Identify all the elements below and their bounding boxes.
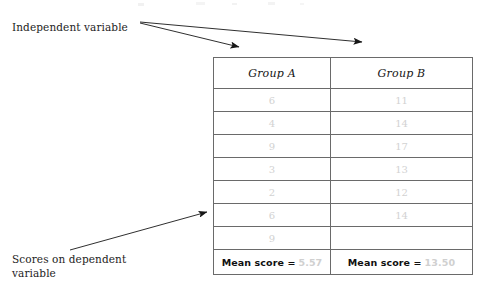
cell-group-b-score: 14 xyxy=(331,204,473,227)
scan-artifact xyxy=(0,0,485,10)
mean-score-label: Mean score = xyxy=(222,257,296,268)
table-row: 3 13 xyxy=(214,158,473,181)
cell-group-a-score: 4 xyxy=(214,112,331,135)
cell-group-a-score: 3 xyxy=(214,158,331,181)
cell-group-a-mean: Mean score = 5.57 xyxy=(214,250,331,275)
mean-score-label: Mean score = xyxy=(348,257,422,268)
cell-group-a-score: 9 xyxy=(214,227,331,250)
arrow-to-group-b xyxy=(140,22,362,42)
cell-group-b-score: 11 xyxy=(331,89,473,112)
annotation-independent-variable: Independent variable xyxy=(12,20,128,34)
cell-group-b-score: 14 xyxy=(331,112,473,135)
table-header-row: Group A Group B xyxy=(214,58,473,89)
table-row: 4 14 xyxy=(214,112,473,135)
table-row: 9 xyxy=(214,227,473,250)
table-row: 6 11 xyxy=(214,89,473,112)
cell-group-b-score: 13 xyxy=(331,158,473,181)
cell-group-b-score: 17 xyxy=(331,135,473,158)
table-row: 2 12 xyxy=(214,181,473,204)
cell-group-b-score: 12 xyxy=(331,181,473,204)
cell-group-b-mean: Mean score = 13.50 xyxy=(331,250,473,275)
cell-group-a-score: 6 xyxy=(214,204,331,227)
annotation-scores-dependent-variable: Scores on dependent variable xyxy=(12,252,126,280)
mean-score-value-group-b: 13.50 xyxy=(425,257,456,268)
table-row: 6 14 xyxy=(214,204,473,227)
cell-group-a-score: 9 xyxy=(214,135,331,158)
cell-group-b-score-empty xyxy=(331,227,473,250)
column-header-group-b: Group B xyxy=(331,58,473,89)
arrow-to-scores xyxy=(70,212,207,250)
group-scores-table: Group A Group B 6 11 4 14 9 17 3 13 2 xyxy=(213,57,473,275)
statistics-table-figure: Independent variable Scores on dependent… xyxy=(0,0,485,287)
table-summary-row: Mean score = 5.57 Mean score = 13.50 xyxy=(214,250,473,275)
column-header-group-a: Group A xyxy=(214,58,331,89)
cell-group-a-score: 6 xyxy=(214,89,331,112)
mean-score-value-group-a: 5.57 xyxy=(298,257,322,268)
table-row: 9 17 xyxy=(214,135,473,158)
cell-group-a-score: 2 xyxy=(214,181,331,204)
arrow-to-group-a xyxy=(140,23,239,47)
